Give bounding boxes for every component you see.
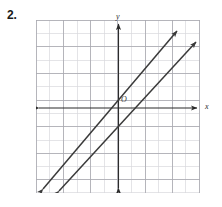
coordinate-plane-svg [36, 20, 200, 193]
problem-number: 2. [7, 8, 17, 22]
graph-line-lower [59, 42, 196, 191]
graph-line-upper [43, 31, 177, 189]
x-axis-label: x [205, 102, 209, 111]
y-axis-label: y [116, 12, 120, 21]
origin-label: O [121, 95, 127, 104]
coordinate-plane [36, 20, 200, 193]
graph-figure: 2. [0, 0, 222, 207]
